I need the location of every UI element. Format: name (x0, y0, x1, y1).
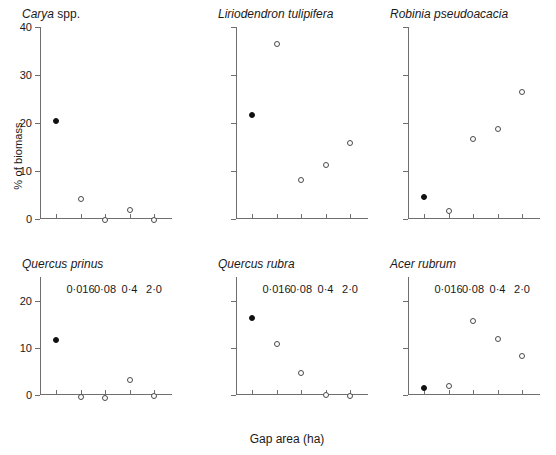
y-tick (35, 27, 40, 28)
x-tick (277, 390, 278, 395)
x-axis-line (408, 394, 540, 395)
plot-area: 010200·0160·080·42·0 (40, 277, 172, 395)
x-tick (449, 214, 450, 219)
data-point (470, 318, 476, 324)
data-point (78, 394, 84, 400)
data-point (347, 140, 353, 146)
x-tick (252, 390, 253, 395)
x-tick (473, 214, 474, 219)
y-axis-line (40, 27, 41, 219)
panel-title: Robinia pseudoacacia (390, 7, 508, 21)
y-axis-line (236, 27, 237, 219)
x-tick-label: 0·08 (462, 284, 484, 295)
data-point (470, 136, 476, 142)
y-tick (403, 171, 408, 172)
x-tick (81, 214, 82, 219)
y-tick (231, 348, 236, 349)
y-tick (403, 301, 408, 302)
panel-title: Carya spp. (22, 7, 80, 21)
x-axis-label-text: Gap area (ha) (250, 432, 325, 446)
y-tick-label: 20 (20, 118, 32, 129)
y-tick (403, 123, 408, 124)
data-point (127, 377, 133, 383)
y-tick (35, 75, 40, 76)
data-point (274, 341, 280, 347)
x-tick-label: 2·0 (342, 284, 358, 295)
data-point (249, 112, 255, 118)
x-tick (498, 214, 499, 219)
plot-area: 0·0160·080·42·0 (408, 277, 540, 395)
x-axis-label: Gap area (ha) (0, 432, 556, 446)
plot-area: 010203040 (40, 27, 172, 219)
y-axis-line (408, 277, 409, 395)
x-tick (130, 214, 131, 219)
x-tick (522, 214, 523, 219)
y-tick (35, 301, 40, 302)
x-tick-label: 0·08 (94, 284, 116, 295)
panel-title: Acer rubrum (390, 257, 456, 271)
x-tick (56, 214, 57, 219)
y-axis-label: % of biomass (12, 96, 24, 216)
data-point (102, 217, 108, 223)
panel-title: Quercus prinus (22, 257, 103, 271)
x-tick (350, 214, 351, 219)
x-tick-label: 0·4 (122, 284, 138, 295)
y-tick (403, 219, 408, 220)
plot-area: 0·0160·080·42·0 (236, 277, 368, 395)
data-point (495, 336, 501, 342)
y-tick (403, 395, 408, 396)
x-tick (473, 390, 474, 395)
data-point (421, 385, 427, 391)
x-tick-label: 2·0 (514, 284, 530, 295)
y-tick (35, 395, 40, 396)
x-axis-line (236, 218, 368, 219)
y-tick-label: 30 (20, 70, 32, 81)
data-point (347, 393, 353, 399)
x-tick (252, 214, 253, 219)
data-point (151, 217, 157, 223)
y-tick (403, 75, 408, 76)
y-tick (35, 219, 40, 220)
data-point (298, 177, 304, 183)
y-tick (231, 123, 236, 124)
data-point (446, 383, 452, 389)
y-tick-label: 0 (26, 214, 32, 225)
y-axis-line (408, 27, 409, 219)
data-point (519, 89, 525, 95)
y-tick (35, 171, 40, 172)
data-point (298, 370, 304, 376)
x-tick (277, 214, 278, 219)
x-tick (130, 390, 131, 395)
data-point (53, 337, 59, 343)
plot-area (236, 27, 368, 219)
y-tick-label: 10 (20, 166, 32, 177)
x-tick-label: 0·4 (318, 284, 334, 295)
y-tick-label: 20 (20, 295, 32, 306)
data-point (249, 315, 255, 321)
y-tick-label: 10 (20, 342, 32, 353)
y-tick (231, 219, 236, 220)
x-tick-label: 0·08 (290, 284, 312, 295)
x-tick (424, 390, 425, 395)
data-point (446, 208, 452, 214)
data-point (519, 353, 525, 359)
data-point (323, 392, 329, 398)
data-point (421, 194, 427, 200)
x-tick-label: 0·016 (66, 284, 94, 295)
data-point (274, 41, 280, 47)
data-point (495, 126, 501, 132)
data-point (127, 207, 133, 213)
x-tick-label: 0·016 (434, 284, 462, 295)
y-tick (231, 171, 236, 172)
x-tick (522, 390, 523, 395)
x-tick (498, 390, 499, 395)
y-tick (231, 301, 236, 302)
y-axis-line (236, 277, 237, 395)
x-tick (56, 390, 57, 395)
x-tick (449, 390, 450, 395)
data-point (102, 395, 108, 401)
panel-title: Quercus rubra (218, 257, 295, 271)
figure-panel-grid: % of biomass Gap area (ha) Carya spp.010… (0, 0, 556, 455)
data-point (323, 162, 329, 168)
data-point (53, 118, 59, 124)
